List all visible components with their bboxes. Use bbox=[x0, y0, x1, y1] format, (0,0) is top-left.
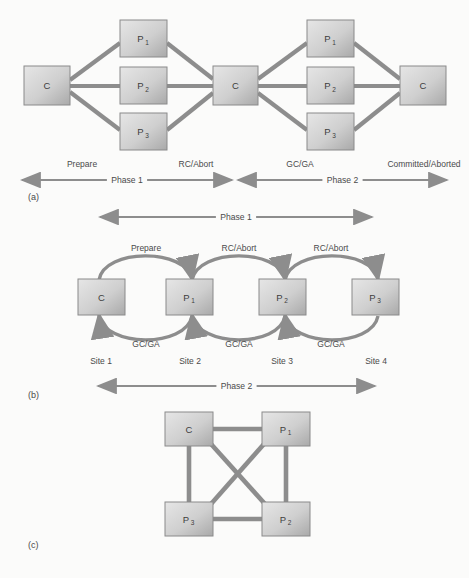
phase-bar-a-phase2: Phase 2 bbox=[238, 175, 447, 185]
phase-bar-b-phase1: Phase 1 bbox=[100, 212, 372, 222]
node-label: P bbox=[137, 126, 143, 137]
node-label: C bbox=[186, 424, 193, 435]
label-b-lab-gcga2: GC/GA bbox=[225, 339, 253, 349]
node-a-c-mid: C bbox=[213, 66, 258, 105]
node-a-p3-l: P3 bbox=[120, 113, 167, 150]
label-b-lab-gcga1: GC/GA bbox=[132, 339, 160, 349]
node-label: P bbox=[183, 292, 189, 303]
nodes-layer: CP1P2P3CP1P2P3CCP1P2P3CP1P3P2 bbox=[24, 20, 446, 536]
node-a-p1-l: P1 bbox=[120, 20, 167, 57]
node-label: C bbox=[420, 80, 427, 91]
node-label: P bbox=[137, 33, 143, 44]
node-label-subscript: 2 bbox=[332, 86, 336, 93]
node-a-p2-r: P2 bbox=[307, 67, 354, 104]
label-b-site2: Site 2 bbox=[179, 356, 201, 366]
node-b-c: C bbox=[78, 279, 125, 315]
label-b-lab-rcabort2: RC/Abort bbox=[314, 243, 350, 253]
phase-bar-label: Phase 1 bbox=[220, 212, 252, 222]
label-b-site1: Site 1 bbox=[90, 356, 112, 366]
panel-b-arcs bbox=[99, 256, 378, 340]
node-label: P bbox=[324, 33, 330, 44]
phase-bar-b-phase2: Phase 2 bbox=[98, 381, 375, 391]
node-label: P bbox=[280, 424, 286, 435]
phase-bar-label: Phase 2 bbox=[221, 381, 253, 391]
figure-container: CP1P2P3CP1P2P3CCP1P2P3CP1P3P2 Phase 1Pha… bbox=[0, 0, 469, 578]
node-label: P bbox=[324, 126, 330, 137]
label-a-lab-gcga: GC/GA bbox=[286, 159, 314, 169]
node-b-p3: P3 bbox=[352, 279, 399, 315]
node-label-subscript: 2 bbox=[288, 519, 292, 526]
node-label-subscript: 1 bbox=[191, 297, 195, 304]
node-label: P bbox=[280, 514, 286, 525]
arc-rcabort-2 bbox=[285, 256, 378, 280]
label-b-lab-prepare: Prepare bbox=[131, 243, 162, 253]
node-label-subscript: 3 bbox=[191, 519, 195, 526]
node-label: C bbox=[98, 292, 105, 303]
node-label-subscript: 3 bbox=[377, 297, 381, 304]
node-label: C bbox=[44, 80, 51, 91]
node-label-subscript: 3 bbox=[145, 132, 149, 139]
node-a-p2-l: P2 bbox=[120, 67, 167, 104]
node-b-p1: P1 bbox=[166, 279, 213, 315]
label-a-lab-rcabort: RC/Abort bbox=[179, 159, 215, 169]
node-c-c: C bbox=[165, 412, 213, 446]
label-b-lab-gcga3: GC/GA bbox=[317, 339, 345, 349]
arc-prepare bbox=[99, 256, 192, 280]
node-c-p3: P3 bbox=[165, 502, 213, 536]
node-a-p1-r: P1 bbox=[307, 20, 354, 57]
phase-bar-a-phase1: Phase 1 bbox=[22, 175, 232, 185]
arc-rcabort-1 bbox=[192, 256, 285, 280]
node-label-subscript: 1 bbox=[332, 39, 336, 46]
node-label-subscript: 1 bbox=[145, 39, 149, 46]
label-a-lab-prepare: Prepare bbox=[67, 159, 98, 169]
node-b-p2: P2 bbox=[259, 279, 306, 315]
node-c-p1: P1 bbox=[262, 412, 310, 446]
node-c-p2: P2 bbox=[262, 502, 310, 536]
arc-gcga-3 bbox=[285, 315, 378, 340]
node-label: P bbox=[276, 292, 282, 303]
phase-bar-label: Phase 1 bbox=[111, 175, 143, 185]
node-label-subscript: 1 bbox=[288, 429, 292, 436]
label-b-site3: Site 3 bbox=[271, 356, 293, 366]
arc-gcga-2 bbox=[192, 315, 285, 340]
node-a-c-left: C bbox=[24, 66, 70, 105]
label-b-lab-rcabort1: RC/Abort bbox=[222, 243, 258, 253]
node-label: P bbox=[369, 292, 375, 303]
phase-bar-label: Phase 2 bbox=[327, 175, 359, 185]
panel-caption-caption-b: (b) bbox=[28, 390, 39, 400]
node-label-subscript: 2 bbox=[284, 297, 288, 304]
node-label-subscript: 2 bbox=[145, 86, 149, 93]
node-a-p3-r: P3 bbox=[307, 113, 354, 150]
node-label: P bbox=[324, 80, 330, 91]
label-b-site4: Site 4 bbox=[365, 356, 387, 366]
panel-caption-caption-a: (a) bbox=[28, 192, 39, 202]
node-label-subscript: 3 bbox=[332, 132, 336, 139]
panel-caption-caption-c: (c) bbox=[28, 540, 39, 550]
arc-gcga-1 bbox=[99, 315, 192, 340]
two-phase-commit-diagram: CP1P2P3CP1P2P3CCP1P2P3CP1P3P2 Phase 1Pha… bbox=[0, 0, 469, 578]
node-label: C bbox=[232, 80, 239, 91]
label-a-lab-committed: Committed/Aborted bbox=[387, 159, 460, 169]
node-a-c-right: C bbox=[400, 66, 446, 105]
node-label: P bbox=[183, 514, 189, 525]
node-label: P bbox=[137, 80, 143, 91]
